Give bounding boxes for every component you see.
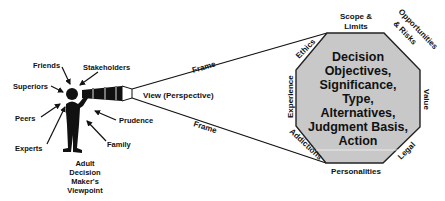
edge-label-scope: Scope & [340,12,372,21]
edge-label-limits: Limits [344,22,368,31]
viewer-label-line-2: Decision [69,168,101,177]
center-line-7: Action [339,134,378,148]
center-line-1: Decision [332,50,384,64]
influence-label-stakeholders: Stakeholders [83,63,130,72]
viewer-label-line-1: Adult [75,159,95,168]
arrow-stakeholders [80,72,98,85]
arrow-family [87,121,106,141]
viewer-label-line-4: Viewpoint [67,186,103,195]
arrow-prudence [95,111,116,120]
center-line-6: Judgment Basis, [308,120,408,134]
decision-framing-diagram: Decision Objectives, Significance, Type,… [0,0,445,201]
center-line-5: Alternatives, [320,106,395,120]
influence-label-superiors: Superiors [13,82,48,91]
person-silhouette-icon [63,88,90,153]
arrow-peers [41,104,60,117]
influence-label-experts: Experts [15,144,43,153]
view-label: View (Perspective) [143,91,214,100]
arrow-superiors [51,86,63,92]
viewer-label: Adult Decision Maker's Viewpoint [67,159,103,195]
influence-label-prudence: Prudence [119,116,153,125]
influence-label-peers: Peers [15,114,35,123]
arrow-experts [47,107,65,144]
viewer-label-line-3: Maker's [71,177,99,186]
center-line-4: Type, [342,92,374,106]
arrow-friends [62,67,70,84]
telescope-icon [82,86,132,101]
frame-label-top: Frame [191,60,217,75]
influence-label-family: Family [107,140,132,149]
edge-label-experience: Experience [286,75,295,118]
center-line-2: Objectives, [325,64,392,78]
center-line-3: Significance, [319,78,396,92]
frame-label-bottom: Frame [192,119,218,135]
influence-label-friends: Friends [33,61,60,70]
edge-label-value: Value [422,89,431,110]
edge-label-personalities: Personalities [331,167,381,176]
